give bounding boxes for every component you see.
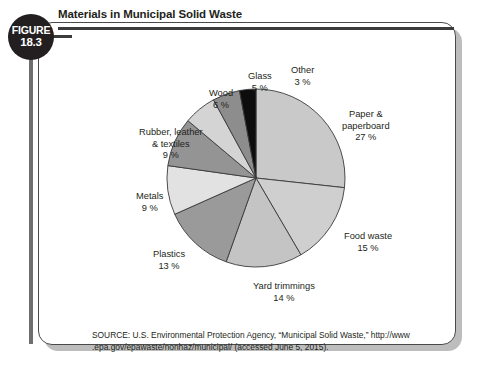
pie-slice-label: Wood 6 % xyxy=(209,88,233,111)
pie-slice-label: Rubber, leather & textiles 9 % xyxy=(139,127,203,162)
source-line-2: .epa.gov/epawaste/nonhaz/municipal/ (acc… xyxy=(92,341,482,353)
figure-badge-stem xyxy=(29,58,33,344)
pie-slice-label: Other 3 % xyxy=(291,65,314,88)
pie-slice-label: Metals 9 % xyxy=(136,191,163,214)
figure-container: Paper & paperboard 27 %Food waste 15 %Ya… xyxy=(0,0,482,370)
figure-badge: FIGURE 18.3 xyxy=(8,14,54,60)
title-underline xyxy=(58,27,454,30)
pie-slice-label: Glass 5 % xyxy=(248,71,272,94)
pie-slice-label: Plastics 13 % xyxy=(153,249,185,272)
figure-frame: Paper & paperboard 27 %Food waste 15 %Ya… xyxy=(38,22,456,345)
page-title: Materials in Municipal Solid Waste xyxy=(58,8,242,20)
source-note: SOURCE: U.S. Environmental Protection Ag… xyxy=(92,329,482,353)
pie-slice-label: Food waste 15 % xyxy=(344,231,392,254)
source-line-1: SOURCE: U.S. Environmental Protection Ag… xyxy=(92,329,482,341)
pie-slice-label: Paper & paperboard 27 % xyxy=(342,109,390,144)
chart-area: Paper & paperboard 27 %Food waste 15 %Ya… xyxy=(39,23,457,346)
figure-badge-word: FIGURE xyxy=(12,25,50,36)
pie-slice-label: Yard trimmings 14 % xyxy=(253,281,315,304)
pie-slice xyxy=(256,89,345,188)
figure-badge-number: 18.3 xyxy=(20,36,42,48)
